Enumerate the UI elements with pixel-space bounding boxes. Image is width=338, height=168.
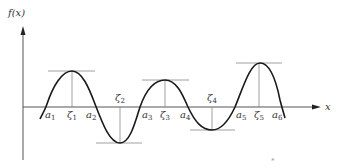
stray-mark: * <box>271 157 275 165</box>
vertical-guides <box>72 63 259 143</box>
extremum-label-zeta1: ζ1 <box>67 109 77 122</box>
zero-label-a5: a5 <box>236 109 246 122</box>
oscillating-function-diagram: f(x) x a1 a2 a3 a4 a5 a6 ζ1 ζ2 ζ3 ζ4 ζ5 … <box>0 0 338 168</box>
zero-label-a3: a3 <box>142 109 152 122</box>
extremum-label-zeta2: ζ2 <box>115 92 125 105</box>
zero-label-a2: a2 <box>86 109 96 122</box>
extremum-label-zeta4: ζ4 <box>207 92 217 105</box>
extremum-label-zeta3: ζ3 <box>160 109 170 122</box>
y-axis-arrow-icon <box>21 26 26 35</box>
y-axis-label: f(x) <box>7 7 25 18</box>
x-axis-arrow-icon <box>312 105 321 110</box>
x-axis-label: x <box>325 101 331 112</box>
function-curve <box>40 63 285 143</box>
extremum-label-zeta5: ζ5 <box>254 109 264 122</box>
zero-label-a6: a6 <box>272 109 283 122</box>
zero-label-a1: a1 <box>45 109 55 122</box>
